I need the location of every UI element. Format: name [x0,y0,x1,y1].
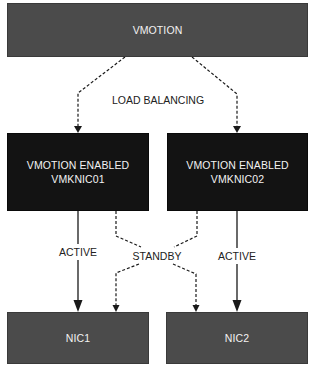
vmknic02-box: VMOTION ENABLED VMKNIC02 [167,133,308,211]
load-balancing-label: LOAD BALANCING [112,94,204,106]
load-balancing-left-arrow-icon [74,126,82,133]
vmknic01-line2: VMKNIC01 [51,172,104,186]
standby-right-arrow-icon [193,305,200,312]
active-left-label: ACTIVE [59,246,97,258]
nic2-label: NIC2 [225,331,249,345]
standby-left-arrow-icon [113,305,120,312]
vmotion-box: VMOTION [7,3,308,57]
active-right-label: ACTIVE [218,250,256,262]
load-balancing-right-line [192,57,237,127]
standby-label: STANDBY [133,250,182,262]
active-left-arrow-icon [74,300,83,312]
vmknic02-line2: VMKNIC02 [211,172,264,186]
nic1-label: NIC1 [66,331,90,345]
nic1-box: NIC1 [7,312,149,364]
load-balancing-right-arrow-icon [233,126,241,133]
active-right-arrow-icon [233,300,242,312]
vmotion-label: VMOTION [133,23,183,37]
vmknic01-line1: VMOTION ENABLED [27,158,129,172]
vmknic01-box: VMOTION ENABLED VMKNIC01 [7,133,149,211]
vmknic02-line1: VMOTION ENABLED [186,158,288,172]
load-balancing-left-line [78,57,125,127]
nic2-box: NIC2 [166,312,308,364]
